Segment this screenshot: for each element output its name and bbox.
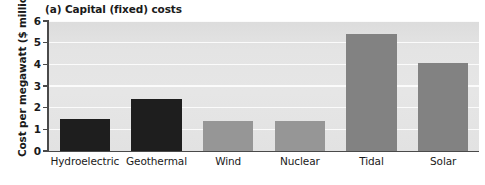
y-tick-label-wrap: 0 (0, 146, 41, 156)
y-tick-label: 5 (1, 37, 41, 47)
y-tick-label-wrap: 1 (0, 124, 41, 134)
bar-wind (203, 121, 254, 151)
gridline (49, 85, 479, 87)
bar-solar (418, 63, 469, 151)
gridline (49, 107, 479, 109)
x-axis-line (47, 151, 479, 153)
x-tick-label-solar: Solar (383, 155, 485, 167)
y-tick-label-wrap: 6 (0, 16, 41, 26)
y-tick-label: 4 (1, 59, 41, 69)
bar-chart-figure: (a) Capital (fixed) costs Cost per megaw… (0, 0, 485, 185)
chart-title: (a) Capital (fixed) costs (45, 3, 182, 15)
plot-area (49, 21, 479, 151)
y-tick-mark (43, 42, 47, 44)
y-tick-mark (43, 64, 47, 66)
bar-geothermal (131, 99, 182, 151)
y-tick-mark (43, 150, 47, 152)
y-tick-label-wrap: 2 (0, 102, 41, 112)
y-tick-label-wrap: 3 (0, 81, 41, 91)
gridline (49, 42, 479, 44)
gridline (49, 129, 479, 131)
y-tick-label: 0 (1, 146, 41, 156)
y-tick-label: 1 (1, 124, 41, 134)
y-tick-mark (43, 20, 47, 22)
gridline (49, 64, 479, 66)
bar-tidal (346, 34, 397, 151)
y-tick-mark (43, 85, 47, 87)
y-tick-label: 3 (1, 81, 41, 91)
y-tick-mark (43, 129, 47, 131)
y-tick-label-wrap: 5 (0, 37, 41, 47)
y-tick-label: 6 (1, 16, 41, 26)
y-tick-label: 2 (1, 102, 41, 112)
bar-hydroelectric (60, 119, 111, 152)
y-axis-line (47, 20, 49, 152)
bar-nuclear (275, 121, 326, 151)
gridline (49, 21, 479, 22)
y-tick-label-wrap: 4 (0, 59, 41, 69)
y-tick-mark (43, 107, 47, 109)
